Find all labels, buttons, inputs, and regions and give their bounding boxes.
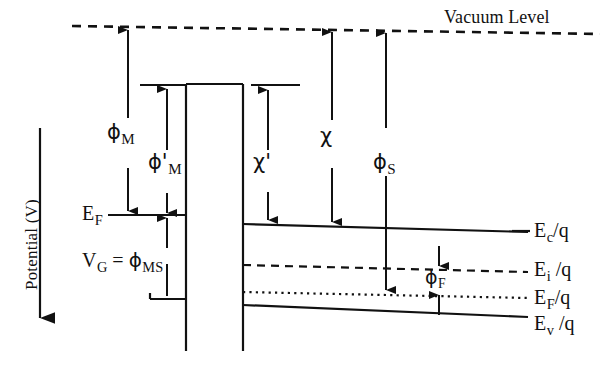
phi-F-symbol: ϕ	[425, 266, 438, 288]
label-EF-over-q: EF/q	[534, 287, 570, 311]
Ei-tail: /q	[551, 258, 572, 280]
phi-M-symbol: ϕ	[107, 120, 121, 144]
phi-F-subscript: F	[438, 276, 446, 291]
potential-axis-label: Potential (V)	[22, 199, 42, 290]
semiconductor-fermi-level-line	[243, 292, 528, 298]
phi-M-prime-label: ϕ'M	[148, 152, 182, 177]
label-Ei-over-q: Ei /q	[534, 259, 571, 283]
phi-S-symbol: ϕ	[373, 150, 387, 174]
phi-S-label: ϕS	[373, 152, 396, 177]
Ev-sub: v	[546, 322, 554, 338]
chi-label: χ	[320, 126, 332, 147]
chi-symbol: χ	[320, 124, 332, 148]
phi-M-label: ϕM	[107, 122, 135, 147]
metal-fermi-main: E	[82, 202, 94, 224]
chi-prime-symbol: χ'	[253, 150, 271, 174]
label-Ev-over-q: Ev /q	[534, 313, 574, 337]
Ec-main: E	[534, 219, 546, 241]
band-diagram-figure: Potential (V) Vacuum Level ϕM ϕ'M χ' χ ϕ…	[0, 0, 603, 365]
gate-voltage-phi: ϕ	[129, 248, 142, 272]
phi-M-subscript: M	[121, 131, 135, 147]
metal-fermi-sub: F	[94, 212, 103, 228]
vacuum-level-label: Vacuum Level	[444, 8, 550, 26]
EF-main: E	[534, 286, 546, 308]
phi-M-prime-subscript: M	[168, 161, 182, 177]
EF-tail: /q	[555, 286, 571, 308]
band-diagram-svg	[0, 0, 603, 365]
phi-S-subscript: S	[387, 161, 396, 177]
Ei-main: E	[534, 258, 546, 280]
gate-voltage-sub: G	[96, 259, 107, 275]
EF-sub: F	[546, 296, 555, 312]
Ev-main: E	[534, 312, 546, 334]
vacuum-level-line	[72, 26, 600, 34]
metal-fermi-label: EF	[82, 203, 103, 227]
phi-M-prime-symbol: ϕ'	[148, 150, 168, 174]
label-Ec-over-q: Ec/q	[534, 220, 569, 244]
oxide-barrier	[186, 84, 243, 351]
Ev-tail: /q	[554, 312, 575, 334]
semiconductor-valence-band-line	[243, 305, 528, 317]
Ec-tail: /q	[553, 219, 569, 241]
gate-voltage-equals: =	[107, 249, 128, 271]
chi-prime-label: χ'	[253, 152, 271, 173]
gate-voltage-main: V	[82, 249, 96, 271]
gate-voltage-label: VG = ϕMS	[82, 250, 163, 274]
phi-F-label: ϕF	[425, 268, 446, 291]
gate-voltage-phi-sub: MS	[142, 259, 163, 275]
